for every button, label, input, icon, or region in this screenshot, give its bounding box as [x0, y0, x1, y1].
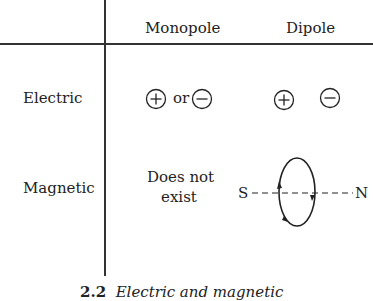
row-label-magnetic: Magnetic — [23, 179, 95, 197]
caption-number: 2.2 — [80, 283, 106, 301]
row-label-electric: Electric — [23, 89, 82, 107]
figure-caption: 2.2 Electric and magnetic — [80, 283, 283, 301]
column-header-dipole: Dipole — [286, 19, 335, 37]
north-pole-label: N — [355, 184, 368, 202]
column-header-monopole: Monopole — [145, 19, 220, 37]
does-not-exist-line2: exist — [161, 188, 197, 206]
current-loop-icon — [250, 150, 355, 230]
minus-charge-icon — [319, 87, 341, 109]
plus-charge-icon — [145, 88, 167, 110]
caption-text: Electric and magnetic — [116, 283, 284, 301]
does-not-exist-line1: Does not — [147, 168, 214, 186]
or-text: or — [173, 89, 189, 107]
table-header-rule — [0, 43, 373, 45]
plus-charge-icon — [273, 89, 295, 111]
south-pole-label: S — [238, 184, 248, 202]
minus-charge-icon — [191, 88, 213, 110]
table-vertical-rule — [104, 0, 106, 276]
